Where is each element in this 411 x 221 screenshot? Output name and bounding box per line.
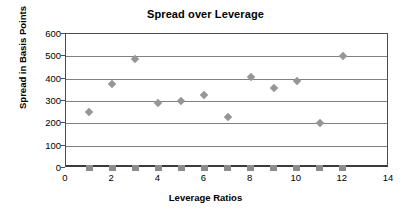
gridline [66, 79, 387, 80]
data-point-spread [223, 113, 231, 121]
data-point-baseline [270, 165, 277, 171]
x-axis-tick-label: 8 [238, 172, 262, 183]
data-point-baseline [132, 165, 139, 171]
y-axis-tick-mark [61, 167, 65, 168]
gridline [66, 123, 387, 124]
data-point-baseline [339, 165, 346, 171]
x-axis-tick-label: 10 [284, 172, 308, 183]
x-axis-tick-label: 14 [376, 172, 400, 183]
data-point-spread [85, 108, 93, 116]
x-axis-tick-label: 4 [145, 172, 169, 183]
data-point-baseline [247, 165, 254, 171]
data-point-spread [316, 118, 324, 126]
x-axis-title: Leverage Ratios [0, 192, 411, 203]
data-point-spread [246, 73, 254, 81]
data-point-baseline [201, 165, 208, 171]
data-point-baseline [178, 165, 185, 171]
data-point-baseline [293, 165, 300, 171]
y-axis-tick-labels: 0100200300400500600 [26, 33, 61, 167]
chart-title: Spread over Leverage [0, 8, 411, 20]
x-axis-tick-label: 6 [191, 172, 215, 183]
y-axis-tick-label: 400 [29, 72, 61, 83]
data-point-spread [269, 84, 277, 92]
y-axis-tick-label: 500 [29, 50, 61, 61]
y-axis-tick-label: 0 [29, 162, 61, 173]
data-point-baseline [316, 165, 323, 171]
data-point-baseline [155, 165, 162, 171]
y-axis-tick-label: 300 [29, 95, 61, 106]
gridline [66, 146, 387, 147]
data-point-spread [200, 90, 208, 98]
x-axis-tick-labels: 02468101214 [65, 172, 388, 186]
y-axis-tick-label: 600 [29, 28, 61, 39]
y-axis-tick-label: 200 [29, 117, 61, 128]
data-point-spread [177, 96, 185, 104]
y-axis-tick-label: 100 [29, 139, 61, 150]
chart-container: Spread over Leverage Spread in Basis Poi… [0, 0, 411, 221]
data-point-spread [154, 98, 162, 106]
x-axis-tick-label: 12 [330, 172, 354, 183]
data-point-baseline [109, 165, 116, 171]
gridline [66, 101, 387, 102]
data-point-baseline [224, 165, 231, 171]
plot-area [65, 33, 388, 167]
x-axis-tick-label: 2 [99, 172, 123, 183]
x-axis-tick-label: 0 [53, 172, 77, 183]
data-point-spread [339, 51, 347, 59]
data-point-baseline [86, 165, 93, 171]
data-point-spread [108, 80, 116, 88]
